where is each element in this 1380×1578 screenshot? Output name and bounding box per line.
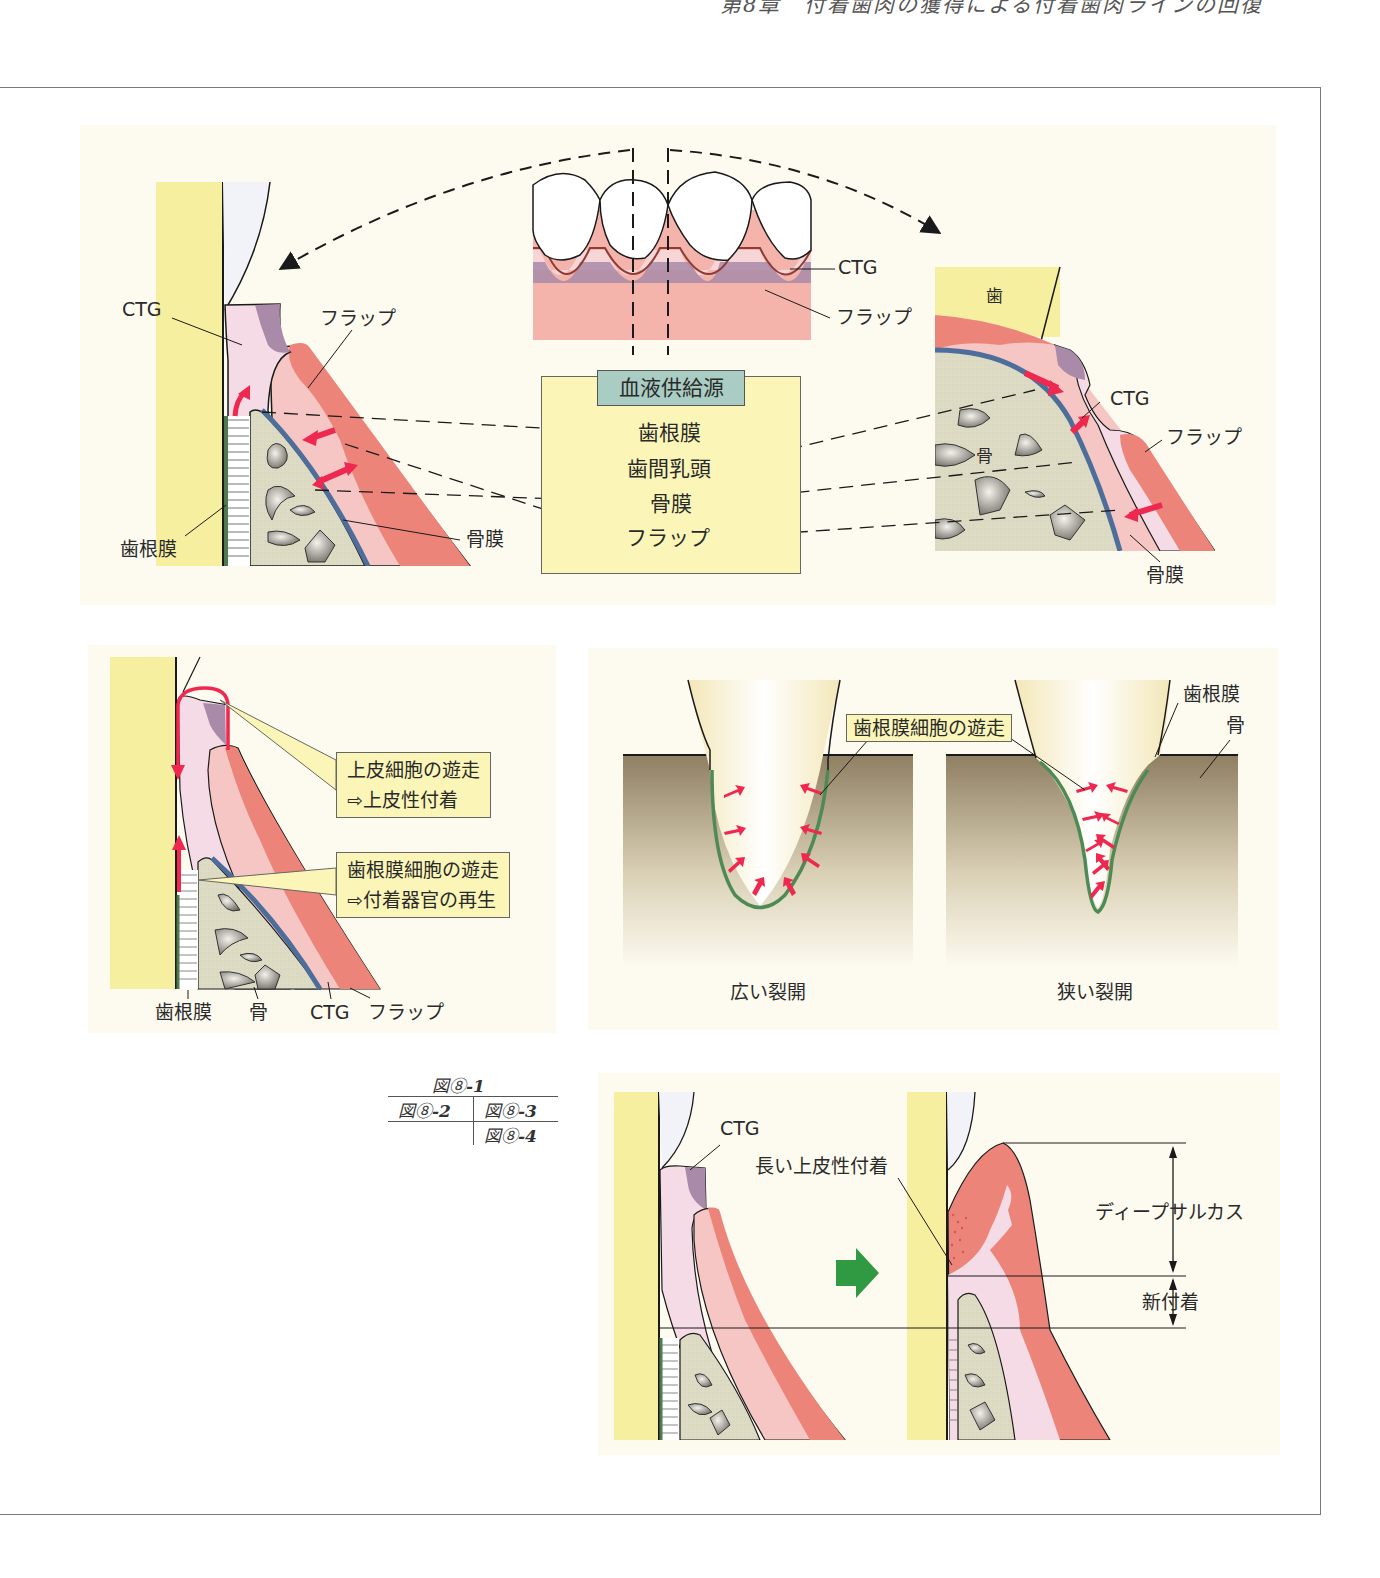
label-long-epithelial-attachment: 長い上皮性付着 [755,1157,888,1176]
figure-4-illustration [0,0,1380,1500]
label-ctg-fig4: CTG [720,1119,760,1138]
label-deep-sulcus: ディープサルカス [1095,1203,1244,1222]
label-new-attachment: 新付着 [1142,1293,1199,1312]
transition-arrow-icon [836,1248,879,1298]
